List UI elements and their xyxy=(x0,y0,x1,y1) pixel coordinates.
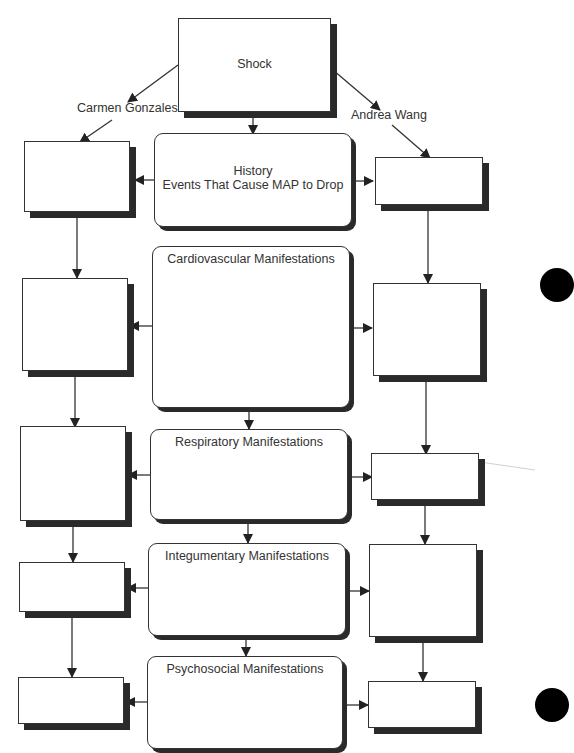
left-box-history[interactable] xyxy=(24,141,130,212)
center-node-integumentary: Integumentary Manifestations xyxy=(148,543,346,636)
history-subtitle: Events That Cause MAP to Drop xyxy=(155,178,351,192)
center-node-psychosocial: Psychosocial Manifestations xyxy=(147,656,343,749)
right-box-cardiovascular[interactable] xyxy=(373,283,481,376)
psychosocial-title: Psychosocial Manifestations xyxy=(148,662,342,676)
center-node-respiratory: Respiratory Manifestations xyxy=(150,429,348,520)
left-box-psychosocial[interactable] xyxy=(18,677,124,724)
right-box-history[interactable] xyxy=(375,157,483,205)
left-box-integumentary[interactable] xyxy=(19,562,125,612)
hole-punch-bottom xyxy=(535,688,569,722)
hole-punch-top xyxy=(540,268,574,302)
history-title: History xyxy=(155,164,351,178)
root-node-shock: Shock xyxy=(178,18,331,112)
root-node-label: Shock xyxy=(179,57,330,71)
right-box-integumentary[interactable] xyxy=(369,544,477,637)
cardiovascular-title: Cardiovascular Manifestations xyxy=(153,252,349,266)
right-box-psychosocial[interactable] xyxy=(368,681,476,728)
center-node-history: History Events That Cause MAP to Drop xyxy=(154,133,352,227)
left-box-cardiovascular[interactable] xyxy=(22,278,128,371)
respiratory-title: Respiratory Manifestations xyxy=(151,435,347,449)
branch-label-left: Carmen Gonzales xyxy=(77,101,178,115)
right-box-respiratory[interactable] xyxy=(371,453,479,500)
left-box-respiratory[interactable] xyxy=(20,426,126,521)
center-node-cardiovascular: Cardiovascular Manifestations xyxy=(152,246,350,408)
branch-label-right: Andrea Wang xyxy=(351,108,427,122)
integumentary-title: Integumentary Manifestations xyxy=(149,549,345,563)
